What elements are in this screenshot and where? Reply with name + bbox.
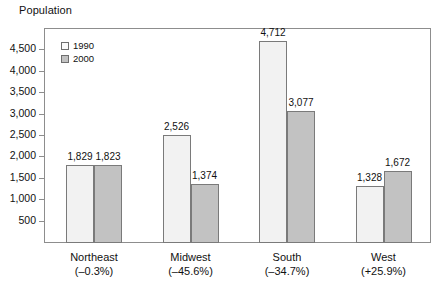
bar-west-2000 (384, 171, 412, 243)
y-axis-tick-label: 500 (18, 214, 36, 226)
legend-label-1990: 1990 (73, 41, 94, 51)
y-axis-tick-label: 3,000 (10, 107, 36, 119)
bar-south-2000 (287, 111, 315, 243)
y-axis-tick-label: 1,500 (10, 171, 36, 183)
bar-value-label: 1,672 (385, 157, 410, 168)
category-name: Northeast (70, 250, 118, 264)
category-change-percent: (–0.3%) (70, 264, 118, 278)
legend-swatch-1990-icon (61, 42, 69, 50)
bar-west-1990 (356, 186, 384, 243)
x-axis-category-label: Northeast(–0.3%) (70, 250, 118, 278)
category-name: Midwest (168, 250, 213, 264)
bar-value-label: 1,374 (192, 170, 217, 181)
y-axis-tick-mark (39, 199, 44, 200)
y-axis-tick-mark (39, 156, 44, 157)
y-axis-tick-label: 3,500 (10, 85, 36, 97)
y-axis-tick-mark (39, 178, 44, 179)
bar-south-1990 (259, 41, 287, 243)
bar-northeast-2000 (94, 165, 122, 243)
y-axis-tick-mark (39, 92, 44, 93)
category-change-percent: (–34.7%) (265, 264, 310, 278)
bar-midwest-2000 (191, 184, 219, 243)
legend-swatch-2000-icon (61, 55, 69, 63)
y-axis-tick-mark (39, 49, 44, 50)
y-axis-tick-label: 1,000 (10, 192, 36, 204)
bar-value-label: 2,526 (164, 121, 189, 132)
x-axis-category-label: South(–34.7%) (265, 250, 310, 278)
chart-legend: 1990 2000 (61, 40, 94, 66)
y-axis-tick-mark (39, 135, 44, 136)
x-axis-category-label: West(+25.9%) (361, 250, 406, 278)
category-name: South (265, 250, 310, 264)
bar-value-label: 4,712 (260, 27, 285, 38)
x-axis-category-label: Midwest(–45.6%) (168, 250, 213, 278)
bar-midwest-1990 (163, 135, 191, 243)
y-axis-tick-mark (39, 114, 44, 115)
y-axis-tick-mark (39, 221, 44, 222)
y-axis-tick-mark (39, 71, 44, 72)
bar-value-label: 1,823 (95, 151, 120, 162)
bar-value-label: 3,077 (288, 97, 313, 108)
y-axis-tick-label: 4,500 (10, 42, 36, 54)
legend-item-1990: 1990 (61, 40, 94, 51)
y-axis-ticks: 5001,0001,5002,0002,5003,0003,5004,0004,… (0, 28, 44, 243)
y-axis-title: Population (19, 4, 72, 16)
y-axis-tick-label: 2,000 (10, 149, 36, 161)
bar-value-label: 1,829 (67, 151, 92, 162)
legend-item-2000: 2000 (61, 53, 94, 64)
legend-label-2000: 2000 (73, 54, 94, 64)
y-axis-tick-label: 4,000 (10, 64, 36, 76)
plot-area: 1,8291,8232,5261,3744,7123,0771,3281,672 (45, 29, 431, 243)
category-name: West (361, 250, 406, 264)
category-change-percent: (–45.6%) (168, 264, 213, 278)
category-change-percent: (+25.9%) (361, 264, 406, 278)
y-axis-tick-label: 2,500 (10, 128, 36, 140)
bar-northeast-1990 (66, 165, 94, 243)
bar-value-label: 1,328 (357, 172, 382, 183)
population-bar-chart: Population 5001,0001,5002,0002,5003,0003… (0, 0, 445, 291)
